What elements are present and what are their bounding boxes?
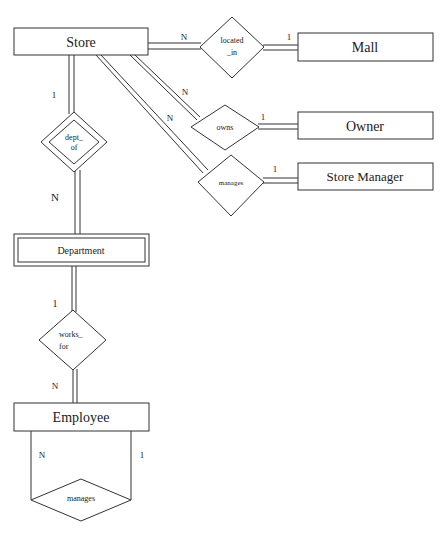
edge-department-works-for (72, 266, 76, 312)
cardinality-employee-manages-left: N (39, 450, 46, 460)
edge-owns-owner (258, 124, 298, 129)
cardinality-store-dept-of: 1 (52, 90, 57, 100)
relationship-located-in-line2: _in (226, 48, 237, 57)
entity-store-manager[interactable]: Store Manager (298, 163, 433, 190)
edge-located-in-mall (263, 45, 298, 50)
cardinality-store-owns: N (182, 87, 189, 97)
relationship-manages-employee[interactable]: manages (31, 479, 131, 521)
relationship-dept-of-line2: of (71, 143, 78, 152)
cardinality-owner-owns: 1 (261, 112, 266, 122)
cardinality-manager-manages: 1 (273, 164, 278, 174)
relationship-owns[interactable]: owns (191, 105, 259, 150)
entity-department-label: Department (57, 245, 104, 256)
relationship-works-for[interactable]: works_ for (39, 310, 106, 370)
er-diagram: Store Mall Owner Store Manager Departmen… (0, 0, 448, 538)
cardinality-mall-located-in: 1 (287, 32, 292, 42)
edge-works-for-employee (73, 369, 77, 403)
entity-store-label: Store (66, 35, 96, 50)
entity-store[interactable]: Store (14, 28, 148, 55)
entity-mall-label: Mall (352, 40, 379, 55)
edge-dept-of-department (75, 170, 80, 234)
relationship-manages-store-label: manages (219, 179, 244, 187)
cardinality-department-dept-of: N (51, 191, 59, 203)
edge-store-located-in (148, 43, 201, 49)
entity-owner[interactable]: Owner (298, 112, 433, 139)
relationship-dept-of-identifying[interactable]: dept_ of (41, 112, 107, 172)
entity-employee[interactable]: Employee (14, 403, 149, 431)
entity-owner-label: Owner (346, 119, 384, 134)
cardinality-department-works-for: 1 (53, 298, 58, 309)
edge-store-owns (130, 55, 200, 120)
entity-department-weak[interactable]: Department (14, 234, 149, 266)
cardinality-store-located-in: N (181, 32, 188, 42)
cardinality-store-manages: N (167, 113, 174, 123)
cardinality-employee-works-for: N (52, 381, 59, 391)
entity-employee-label: Employee (53, 410, 110, 425)
relationship-manages-employee-label: manages (67, 494, 95, 503)
relationship-dept-of-line1: dept_ (65, 133, 84, 142)
relationship-owns-label: owns (217, 123, 234, 132)
relationship-works-for-line2: for (59, 342, 69, 351)
relationship-located-in-line1: located (220, 36, 243, 45)
edge-store-dept-of (69, 55, 74, 114)
relationship-works-for-line1: works_ (59, 330, 84, 339)
cardinality-employee-manages-right: 1 (140, 450, 145, 460)
relationship-located-in[interactable]: located _in (200, 17, 264, 78)
relationship-manages-store[interactable]: manages (198, 155, 264, 216)
edge-manages-store-manager (263, 178, 298, 183)
entity-store-manager-label: Store Manager (327, 169, 405, 184)
entity-mall[interactable]: Mall (298, 33, 433, 61)
